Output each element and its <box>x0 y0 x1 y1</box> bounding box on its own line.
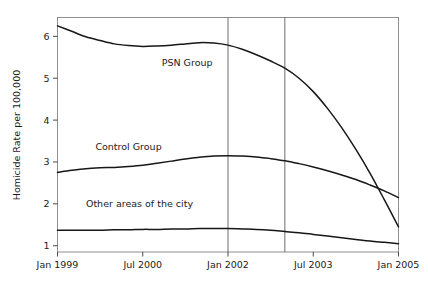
line-chart: Jan 1999Jul 2000Jan 2002Jul 2003Jan 2005… <box>0 0 428 285</box>
series-annotation-1: Control Group <box>95 141 161 152</box>
x-tick-label-0: Jan 1999 <box>36 259 79 270</box>
series-annotation-0: PSN Group <box>162 57 213 68</box>
y-axis-label: Homicide Rate per 100,000 <box>11 70 22 201</box>
x-tick-label-1: Jul 2000 <box>122 259 162 270</box>
y-tick-label-0: 1 <box>43 240 49 251</box>
y-tick-label-3: 4 <box>43 115 49 126</box>
y-tick-label-1: 2 <box>43 198 49 209</box>
chart-container: Jan 1999Jul 2000Jan 2002Jul 2003Jan 2005… <box>0 0 428 285</box>
x-tick-label-4: Jan 2005 <box>377 259 420 270</box>
x-tick-label-2: Jan 2002 <box>206 259 249 270</box>
y-tick-label-4: 5 <box>43 73 49 84</box>
x-tick-label-3: Jul 2003 <box>293 259 333 270</box>
y-tick-label-5: 6 <box>43 31 49 42</box>
y-tick-label-2: 3 <box>43 156 49 167</box>
series-annotation-2: Other areas of the city <box>86 198 194 209</box>
